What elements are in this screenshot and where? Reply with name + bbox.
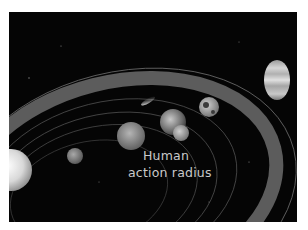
jupiter — [264, 60, 290, 100]
stars — [28, 42, 279, 203]
mars — [199, 97, 219, 117]
mercury — [67, 148, 83, 164]
moon — [173, 125, 189, 141]
solar-system-image: Human action radius — [9, 12, 297, 222]
solar-system-illustration — [9, 12, 297, 222]
comet — [140, 95, 156, 107]
venus — [117, 122, 145, 150]
